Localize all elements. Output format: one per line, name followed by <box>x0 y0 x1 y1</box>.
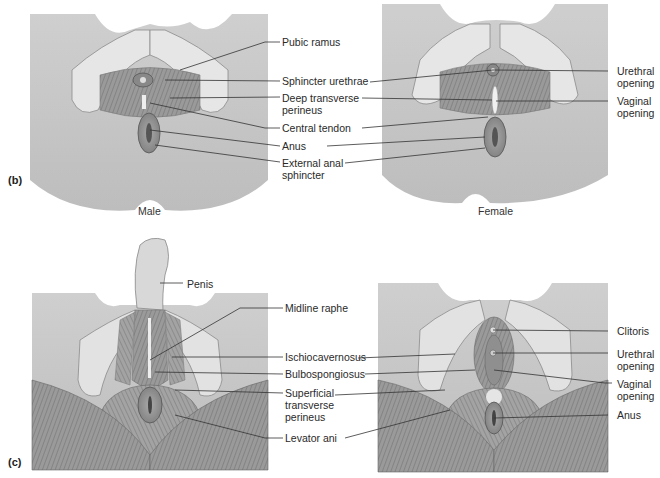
label-midline-raphe: Midline raphe <box>285 302 348 314</box>
label-c-urethral-opening-line2: opening <box>617 360 654 372</box>
label-superficial-transverse-perineus-line2: transverse <box>285 399 334 411</box>
label-penis: Penis <box>187 278 213 290</box>
female-deep-perineum-illustration <box>382 4 608 203</box>
label-b-urethral-opening-line2: opening <box>617 77 654 89</box>
label-superficial-transverse-perineus-line1: Superficial <box>285 387 334 399</box>
label-clitoris: Clitoris <box>617 325 649 337</box>
panel-b-tag: (b) <box>8 174 22 186</box>
label-bulbospongiosus: Bulbospongiosus <box>285 368 365 380</box>
label-external-anal-sphincter-line1: External anal <box>282 157 343 169</box>
label-ischiocavernosus: Ischiocavernosus <box>285 351 366 363</box>
male-deep-perineum-illustration <box>30 14 268 211</box>
label-central-tendon: Central tendon <box>282 122 351 134</box>
label-c-anus: Anus <box>617 409 641 421</box>
label-anus: Anus <box>282 140 306 152</box>
female-caption: Female <box>478 205 513 217</box>
female-superficial-perineum-illustration <box>378 283 608 472</box>
male-caption: Male <box>138 205 161 217</box>
label-b-vaginal-opening-line2: opening <box>617 107 654 119</box>
panel-c-tag: (c) <box>8 456 21 468</box>
label-c-urethral-opening-line1: Urethral <box>617 348 654 360</box>
label-b-urethral-opening-line1: Urethral <box>617 65 654 77</box>
label-b-vaginal-opening-line1: Vaginal <box>617 95 651 107</box>
label-superficial-transverse-perineus-line3: perineus <box>285 411 325 423</box>
label-deep-transverse-perineus-line1: Deep transverse <box>282 92 359 104</box>
label-sphincter-urethrae: Sphincter urethrae <box>282 75 368 87</box>
label-c-vaginal-opening-line2: opening <box>617 390 654 402</box>
male-superficial-perineum-illustration <box>32 238 268 470</box>
label-c-vaginal-opening-line1: Vaginal <box>617 378 651 390</box>
label-external-anal-sphincter-line2: sphincter <box>282 169 325 181</box>
label-deep-transverse-perineus-line2: perineus <box>282 104 322 116</box>
label-pubic-ramus: Pubic ramus <box>282 36 340 48</box>
label-levator-ani: Levator ani <box>285 432 337 444</box>
